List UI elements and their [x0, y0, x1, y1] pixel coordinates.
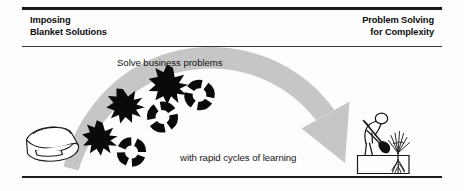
folded-blanket-icon — [27, 127, 79, 161]
plant-with-roots-icon — [389, 132, 410, 174]
gardener-scene — [358, 113, 410, 173]
iteration-cycle-ring-icon — [118, 138, 146, 166]
diagram-figure: Imposing Blanket Solutions Problem Solvi… — [0, 0, 464, 191]
iteration-cycle-ring-icon — [149, 104, 176, 131]
iteration-cycle-ring-icon — [184, 80, 215, 111]
caption-rapid-cycles-of-learning: with rapid cycles of learning — [180, 152, 296, 163]
caption-solve-business-problems: Solve business problems — [117, 57, 223, 68]
gardener-digging-icon — [364, 113, 390, 155]
